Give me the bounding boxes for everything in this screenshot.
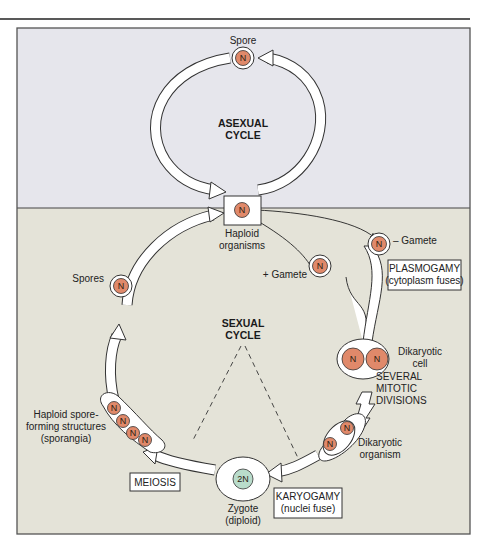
sexual-title-line2: CYCLE — [225, 329, 261, 341]
svg-text:N: N — [118, 281, 125, 291]
plus-gamete-label: + Gamete — [263, 269, 308, 280]
spores: N — [110, 275, 132, 297]
dikaryotic-cell-label-line2: cell — [412, 358, 427, 369]
fungal-life-cycle-diagram: N Spore ASEXUAL CYCLE N Haploid organ — [0, 0, 485, 555]
sporangia-label-line2: forming structures — [26, 421, 106, 432]
plasmogamy-subtitle: (cytoplasm fuses) — [385, 275, 463, 286]
zygote-label-line1: Zygote — [228, 503, 259, 514]
dikaryotic-organism-label-line2: organism — [359, 449, 400, 460]
svg-text:N: N — [111, 403, 118, 413]
svg-text:N: N — [130, 428, 137, 438]
haploid-label-line1: Haploid — [225, 228, 259, 239]
spore: N — [232, 47, 254, 69]
karyogamy-title: KARYOGAMY — [276, 491, 341, 502]
spore-nucleus: N — [240, 53, 247, 63]
sporangia-label-line3: (sporangia) — [41, 433, 92, 444]
svg-text:N: N — [327, 439, 334, 449]
zygote: 2N — [216, 457, 270, 501]
plus-gamete: N — [309, 255, 331, 277]
svg-text:N: N — [142, 435, 149, 445]
plasmogamy-title: PLASMOGAMY — [389, 263, 460, 274]
minus-gamete-label: – Gamete — [393, 235, 437, 246]
dikaryotic-cell-label-line1: Dikaryotic — [398, 346, 442, 357]
mitotic-line3: DIVISIONS — [376, 395, 427, 406]
haploid-label-line2: organisms — [219, 240, 265, 251]
spore-label: Spore — [230, 35, 257, 46]
svg-text:N: N — [374, 354, 381, 364]
svg-text:N: N — [344, 423, 351, 433]
mitotic-line1: SEVERAL — [376, 371, 423, 382]
zygote-nucleus: 2N — [237, 474, 249, 484]
svg-text:N: N — [120, 416, 127, 426]
asexual-title-line1: ASEXUAL — [218, 117, 269, 129]
minus-gamete: N — [368, 233, 390, 255]
asexual-title-line2: CYCLE — [225, 129, 261, 141]
haploid-nucleus: N — [239, 205, 246, 215]
sporangia-label-line1: Haploid spore- — [33, 409, 98, 420]
spores-label: Spores — [72, 273, 104, 284]
svg-text:N: N — [350, 354, 357, 364]
mitotic-line2: MITOTIC — [376, 383, 417, 394]
zygote-label-line2: (diploid) — [225, 515, 261, 526]
meiosis-title: MEIOSIS — [134, 477, 176, 488]
haploid-organism-box: N — [224, 196, 261, 225]
svg-text:N: N — [317, 261, 324, 271]
dikaryotic-organism-label-line1: Dikaryotic — [358, 437, 402, 448]
karyogamy-subtitle: (nuclei fuse) — [281, 503, 335, 514]
sexual-title-line1: SEXUAL — [222, 317, 265, 329]
svg-text:N: N — [376, 239, 383, 249]
